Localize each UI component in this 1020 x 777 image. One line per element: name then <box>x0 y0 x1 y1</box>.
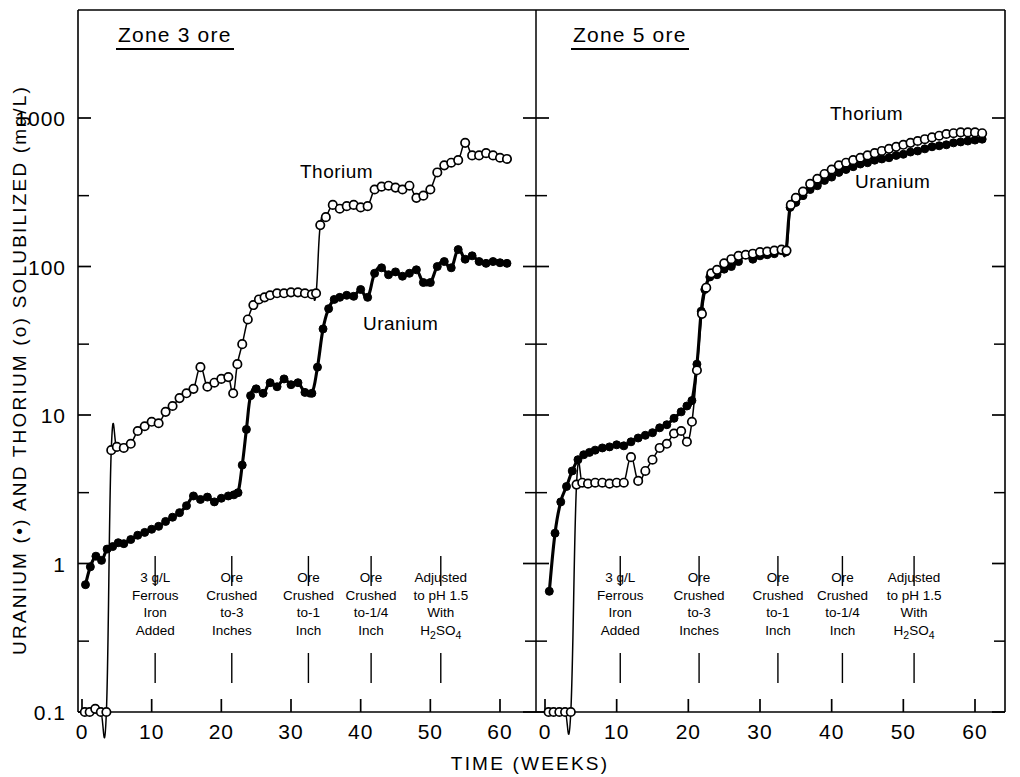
data-point-thorium <box>363 202 371 210</box>
annotation-line: Added <box>601 623 640 638</box>
annotation-line: to-3 <box>687 605 710 620</box>
series-label-thorium-zone5: Thorium <box>830 103 903 124</box>
x-tick-label: 50 <box>418 720 443 743</box>
annotation-line: to pH 1.5 <box>413 588 468 603</box>
data-point-thorium <box>196 363 204 371</box>
data-point-thorium <box>702 283 710 291</box>
data-point-uranium <box>433 263 441 271</box>
x-tick-label: 0 <box>76 720 89 743</box>
data-point-thorium <box>168 402 176 410</box>
data-point-uranium <box>364 293 372 301</box>
data-point-thorium <box>229 389 237 397</box>
data-point-thorium <box>189 385 197 393</box>
data-point-uranium <box>468 252 476 260</box>
data-point-thorium <box>154 419 162 427</box>
data-point-uranium <box>440 258 448 266</box>
x-tick-label: 60 <box>487 720 512 743</box>
data-point-uranium <box>234 489 242 497</box>
annotation-line: 3 g/L <box>605 570 636 585</box>
series-curve-thorium-zone3 <box>85 143 507 738</box>
annotation-line: Crushed <box>752 588 803 603</box>
annotation-line: 3 g/L <box>140 570 171 585</box>
annotation-line: Crushed <box>817 588 868 603</box>
data-point-uranium <box>273 383 281 391</box>
annotation-line: to-1 <box>766 605 789 620</box>
annotation-line: to pH 1.5 <box>887 588 942 603</box>
data-point-uranium <box>280 375 288 383</box>
annotation-line: Crushed <box>674 588 725 603</box>
data-point-thorium <box>244 315 252 323</box>
data-point-thorium <box>127 440 135 448</box>
data-point-thorium <box>419 191 427 199</box>
annotation-line: Adjusted <box>888 570 941 585</box>
annotation-line: Inch <box>765 623 791 638</box>
data-point-uranium <box>454 246 462 254</box>
annotation-line: to-3 <box>220 605 243 620</box>
annotation-line: Crushed <box>346 588 397 603</box>
panel-title-zone5: Zone 5 ore <box>573 23 687 46</box>
series-label-uranium-zone5: Uranium <box>855 171 930 192</box>
data-point-uranium <box>412 266 420 274</box>
data-point-uranium <box>325 305 333 313</box>
data-point-thorium <box>316 221 324 229</box>
annotation-line: Inches <box>679 623 719 638</box>
data-point-thorium <box>426 185 434 193</box>
x-tick-label: 40 <box>819 720 844 743</box>
annotation-line: Ore <box>360 570 383 585</box>
x-tick-label: 40 <box>348 720 373 743</box>
data-point-thorium <box>641 467 649 475</box>
annotation-line: Crushed <box>283 588 334 603</box>
data-point-thorium <box>693 366 701 374</box>
y-tick-label: 1 <box>53 553 66 576</box>
data-point-thorium <box>634 477 642 485</box>
data-point-thorium <box>683 438 691 446</box>
annotation-line: Ore <box>767 570 790 585</box>
data-point-uranium <box>649 429 657 437</box>
data-point-thorium <box>233 360 241 368</box>
annotation-line: Ore <box>297 570 320 585</box>
data-point-thorium <box>713 266 721 274</box>
data-point-uranium <box>86 563 94 571</box>
data-point-thorium <box>461 139 469 147</box>
data-point-uranium <box>183 502 191 510</box>
series-label-thorium-zone3: Thorium <box>300 161 373 182</box>
data-point-thorium <box>627 453 635 461</box>
annotation-line: With <box>901 605 928 620</box>
data-point-thorium <box>405 182 413 190</box>
x-tick-label: 30 <box>278 720 303 743</box>
data-point-thorium <box>224 373 232 381</box>
data-point-uranium <box>503 259 511 267</box>
data-point-uranium <box>426 279 434 287</box>
data-point-uranium <box>557 498 565 506</box>
x-tick-label: 0 <box>539 720 552 743</box>
annotation-line: Inch <box>296 623 322 638</box>
data-point-thorium <box>102 708 110 716</box>
data-point-thorium <box>648 456 656 464</box>
annotation-line: Iron <box>609 605 632 620</box>
annotation-line: Inches <box>212 623 252 638</box>
data-point-uranium <box>308 389 316 397</box>
data-point-uranium <box>568 467 576 475</box>
annotation-line: H2SO4 <box>894 623 935 641</box>
annotation-line: to-1/4 <box>354 605 389 620</box>
x-tick-label: 60 <box>962 720 987 743</box>
data-point-uranium <box>247 392 255 400</box>
y-tick-label: 100 <box>28 256 66 279</box>
data-point-thorium <box>567 708 575 716</box>
data-point-uranium <box>878 155 886 163</box>
data-point-uranium <box>203 493 211 501</box>
annotation-line: H2SO4 <box>420 623 461 641</box>
data-point-uranium <box>620 442 628 450</box>
y-tick-label: 0.1 <box>34 701 66 724</box>
data-point-thorium <box>663 440 671 448</box>
data-point-uranium <box>378 264 386 272</box>
data-point-uranium <box>371 269 379 277</box>
data-point-thorium <box>433 168 441 176</box>
data-point-thorium <box>677 427 685 435</box>
annotation-line: to-1 <box>297 605 320 620</box>
data-point-uranium <box>551 529 559 537</box>
data-point-uranium <box>545 587 553 595</box>
x-tick-label: 10 <box>139 720 164 743</box>
panel-title-zone3: Zone 3 ore <box>118 23 232 46</box>
data-point-uranium <box>319 325 327 333</box>
